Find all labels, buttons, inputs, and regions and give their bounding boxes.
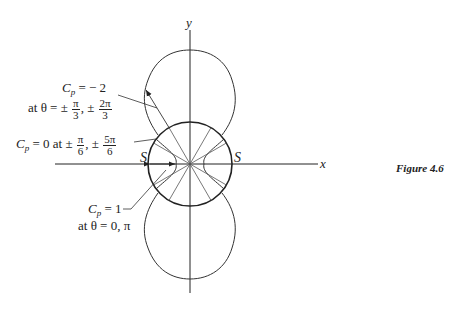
cp-zero-text: = 0 at ± xyxy=(29,136,72,151)
leader-cp-one-diag xyxy=(131,170,166,209)
fraction-pi-3: π3 xyxy=(72,98,80,121)
cp-symbol: C xyxy=(88,201,97,216)
cp-one-angles: at θ = 0, π xyxy=(78,218,130,234)
fraction-5pi-6: 5π6 xyxy=(103,134,116,157)
cp-minus2-label: Cp = − 2 xyxy=(62,80,106,96)
cp-symbol: C xyxy=(62,80,71,95)
separator: , ± xyxy=(81,100,95,115)
leader-cp-zero xyxy=(134,139,156,142)
leader-cp-minus2 xyxy=(118,95,157,108)
stagnation-label-left: S xyxy=(140,150,147,166)
angle-prefix: at θ = ± xyxy=(28,100,68,115)
cp-one-label: Cp = 1 xyxy=(88,201,122,217)
cp-value: = 1 xyxy=(101,201,121,216)
separator: , ± xyxy=(85,136,99,151)
cp-symbol: C xyxy=(16,136,25,151)
stagnation-label-right: S xyxy=(234,150,241,166)
cp-subscript: p xyxy=(97,208,102,218)
cp-zero-label: Cp = 0 at ± π6, ± 5π6 xyxy=(16,134,117,157)
cp-minus2-arrow xyxy=(146,90,169,128)
cp-minus2-angles: at θ = ± π3, ± 2π3 xyxy=(28,98,113,121)
cp-subscript: p xyxy=(25,143,30,153)
cp-subscript: p xyxy=(71,87,76,97)
y-axis-label: y xyxy=(186,15,192,31)
figure-caption: Figure 4.6 xyxy=(396,162,444,174)
x-axis-label: x xyxy=(320,156,326,172)
cp-value: = − 2 xyxy=(75,80,106,95)
fraction-2pi-3: 2π3 xyxy=(99,98,112,121)
fraction-pi-6: π6 xyxy=(77,134,85,157)
